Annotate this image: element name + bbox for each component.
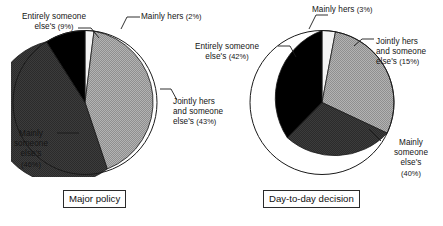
pie-chart-major-policy: Entirely someone else's (9%) Mainly hers…: [0, 0, 221, 226]
leader-line-mainly-hers: [306, 14, 330, 32]
leader-line-mainly-someone-else: [57, 130, 81, 138]
label-mainly-someone-else: Mainly someone else's (40%): [382, 138, 440, 179]
label-entirely-someone-else-text: Entirely someone else's: [22, 12, 86, 31]
leader-line-jointly: [353, 37, 377, 49]
label-mainly-someone-else-pct: (46%): [21, 160, 41, 169]
label-mainly-hers-pct: (3%): [357, 5, 373, 14]
label-entirely-someone-else-pct: (42%): [229, 52, 249, 61]
label-entirely-someone-else-pct: (9%): [58, 22, 74, 31]
label-mainly-hers-pct: (2%): [186, 12, 202, 21]
label-entirely-someone-else: Entirely someone else's (42%): [175, 42, 279, 62]
label-mainly-someone-else-text: Mainly someone else's: [14, 129, 48, 158]
leader-line-entirely-someone-else: [78, 27, 104, 41]
leader-line-mainly-someone-else: [368, 128, 388, 144]
leader-line-mainly-hers: [119, 16, 143, 32]
label-mainly-hers-text: Mainly hers: [312, 5, 357, 14]
label-mainly-hers: Mainly hers (2%): [141, 12, 221, 22]
caption-major-policy: Major policy: [63, 190, 126, 208]
label-jointly-pct: (15%): [399, 57, 419, 66]
label-jointly-pct: (43%): [196, 117, 216, 126]
label-mainly-someone-else: Mainly someone else's (46%): [2, 129, 60, 170]
leader-line-entirely-someone-else: [278, 45, 300, 59]
label-mainly-someone-else-pct: (40%): [401, 169, 421, 178]
caption-day-to-day-decision: Day-to-day decision: [263, 190, 360, 208]
label-mainly-someone-else-text: Mainly someone else's: [394, 138, 428, 167]
pie-chart-day-to-day-decision: Mainly hers (3%) Jointly hers and someon…: [221, 0, 442, 226]
label-jointly-hers-and-someone-else: Jointly hers and someone else's (15%): [376, 37, 442, 68]
label-entirely-someone-else-text: Entirely someone else's: [195, 42, 259, 61]
leader-line-jointly: [159, 88, 179, 102]
label-mainly-hers-text: Mainly hers: [141, 12, 186, 21]
figure-root: Entirely someone else's (9%) Mainly hers…: [0, 0, 443, 226]
